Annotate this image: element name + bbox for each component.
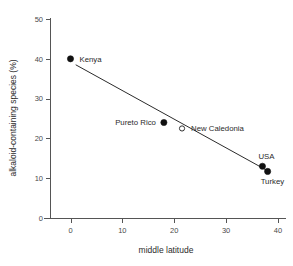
- y-tick-label: 50: [35, 15, 43, 24]
- y-tick-label: 40: [35, 55, 43, 64]
- trend-line: [76, 65, 271, 172]
- x-tick-label: 40: [274, 226, 282, 235]
- point-label-pureto-rico: Pureto Rico: [115, 118, 156, 127]
- x-tick-label: 20: [170, 226, 178, 235]
- data-point-turkey: [265, 168, 271, 174]
- y-tick-group: 01020304050: [35, 15, 51, 223]
- y-axis: 01020304050: [35, 15, 51, 223]
- y-tick-label: 20: [35, 134, 43, 143]
- x-tick-group: 010203040: [68, 219, 282, 236]
- point-label-usa: USA: [258, 152, 275, 161]
- data-point-new-caledonia: [179, 126, 184, 131]
- x-tick-label: 10: [118, 226, 126, 235]
- data-point-usa: [259, 163, 265, 169]
- point-label-kenya: Kenya: [80, 55, 103, 64]
- point-label-turkey: Turkey: [261, 177, 285, 186]
- plot-canvas: 01020304050 010203040 KenyaPureto RicoNe…: [0, 0, 293, 266]
- x-tick-label: 0: [68, 226, 72, 235]
- data-point-kenya: [67, 56, 73, 62]
- scatter-plot-figure: 01020304050 010203040 KenyaPureto RicoNe…: [0, 0, 293, 266]
- data-point-labels-group: KenyaPureto RicoNew CaledoniaUSATurkey: [80, 55, 285, 187]
- data-points-group: [67, 56, 270, 175]
- data-point-pureto-rico: [161, 119, 167, 125]
- y-tick-label: 30: [35, 94, 43, 103]
- trend-line-group: [76, 65, 271, 172]
- x-axis-title: middle latitude: [139, 245, 194, 255]
- y-axis-title: alkaloid-containing species (%): [8, 59, 18, 176]
- x-axis: 010203040: [44, 219, 286, 236]
- y-tick-label: 10: [35, 174, 43, 183]
- x-tick-label: 30: [222, 226, 230, 235]
- point-label-new-caledonia: New Caledonia: [191, 124, 245, 133]
- y-tick-label: 0: [39, 214, 43, 223]
